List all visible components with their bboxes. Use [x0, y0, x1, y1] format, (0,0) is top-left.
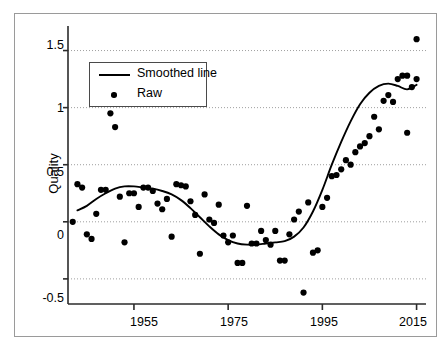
legend-dot-swatch — [111, 92, 117, 98]
plot-area — [15, 14, 436, 336]
x-tick-label-1: 1955 — [114, 315, 174, 329]
y-tick-label-2: 1 — [15, 101, 64, 115]
y-tick-label-1: 1.5 — [15, 38, 64, 52]
legend-item-smoothed-line: Smoothed line — [90, 65, 206, 86]
legend-label-smoothed-line: Smoothed line — [137, 66, 217, 80]
x-tick-label-4: 2015 — [383, 315, 443, 329]
figure-frame: Quality 1.5 1 0.5 0 -0.5 1955 1975 1995 … — [14, 13, 437, 337]
chart-figure: Quality 1.5 1 0.5 0 -0.5 1955 1975 1995 … — [0, 0, 448, 362]
legend: Smoothed line Raw — [89, 62, 207, 107]
legend-label-raw: Raw — [137, 86, 162, 100]
y-tick-label-3: 0.5 — [15, 165, 64, 179]
x-tick-label-3: 1995 — [294, 315, 354, 329]
legend-line-swatch — [99, 74, 130, 76]
y-tick-label-5: -0.5 — [15, 291, 64, 305]
legend-item-raw: Raw — [90, 85, 206, 106]
y-tick-label-4: 0 — [15, 228, 64, 242]
x-tick-label-2: 1975 — [204, 315, 264, 329]
